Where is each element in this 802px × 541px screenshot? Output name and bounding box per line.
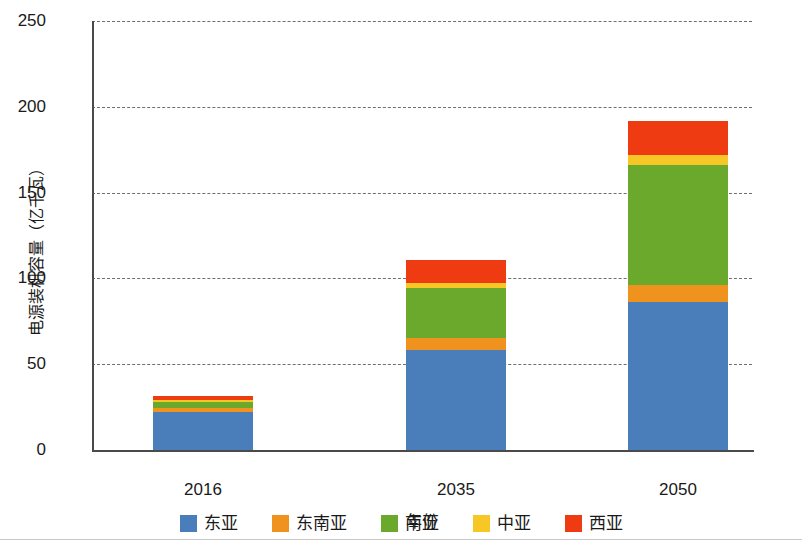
bar-segment-东亚[interactable] [406,350,506,450]
legend-label: 中亚 [497,515,531,532]
y-tick-label: 100 [0,269,46,286]
stacked-bar-chart: 电源装机容量（亿千瓦） 050100150200250 201620352050… [0,0,802,541]
legend-label: 南亚 [405,515,439,532]
legend-label: 东南亚 [296,515,347,532]
bar-segment-南亚[interactable] [628,165,728,285]
bar-2035[interactable] [406,260,506,450]
bottom-divider [0,539,802,540]
bar-segment-东亚[interactable] [628,302,728,450]
legend-swatch-icon [473,515,490,532]
y-tick-label: 150 [0,184,46,201]
legend-item-中亚[interactable]: 中亚 [473,515,531,532]
bar-segment-西亚[interactable] [406,260,506,282]
legend-item-东南亚[interactable]: 东南亚 [272,515,347,532]
legend-swatch-icon [272,515,289,532]
y-axis-line [92,21,94,452]
legend-item-西亚[interactable]: 西亚 [565,515,623,532]
y-tick-label: 250 [0,12,46,29]
gridline [92,107,752,108]
bar-segment-东亚[interactable] [153,412,253,450]
plot-area: 050100150200250 201620352050 年份 [92,21,752,450]
legend-swatch-icon [180,515,197,532]
legend-label: 西亚 [589,515,623,532]
bar-segment-东南亚[interactable] [406,338,506,351]
x-axis-line [92,450,754,452]
legend-item-东亚[interactable]: 东亚 [180,515,238,532]
y-tick-label: 50 [0,355,46,372]
y-axis-title: 电源装机容量（亿千瓦） [23,118,47,378]
legend-item-南亚[interactable]: 南亚 [381,515,439,532]
bar-2050[interactable] [628,121,728,450]
legend-swatch-icon [381,515,398,532]
bar-segment-南亚[interactable] [406,288,506,338]
bar-segment-西亚[interactable] [628,121,728,155]
y-tick-label: 200 [0,98,46,115]
bar-segment-东南亚[interactable] [628,285,728,302]
x-tick-label: 2050 [608,480,748,500]
legend-swatch-icon [565,515,582,532]
bar-2016[interactable] [153,396,253,450]
bar-segment-中亚[interactable] [628,155,728,165]
gridline [92,21,752,22]
x-tick-label: 2035 [386,480,526,500]
legend-label: 东亚 [204,515,238,532]
y-tick-label: 0 [0,441,46,458]
x-tick-label: 2016 [133,480,273,500]
chart-legend: 东亚东南亚南亚中亚西亚 [0,515,802,532]
